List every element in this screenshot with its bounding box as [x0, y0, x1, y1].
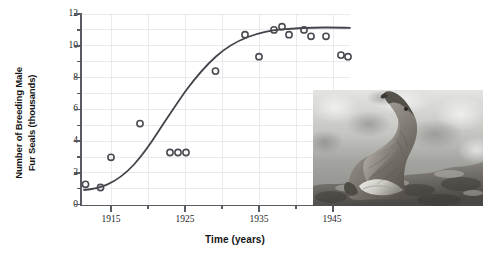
data-point	[167, 149, 173, 155]
data-point	[242, 32, 248, 38]
seal-population-figure: Number of Breeding Male Fur Seals (thous…	[0, 0, 500, 266]
data-point	[137, 121, 143, 127]
data-point	[286, 32, 292, 38]
data-point	[338, 52, 344, 58]
data-point	[212, 68, 218, 74]
fur-seal-photo-image	[313, 90, 483, 206]
fitted-logistic-curve	[84, 28, 350, 191]
data-point	[82, 181, 88, 187]
data-point	[183, 149, 189, 155]
grid-horizontal	[81, 14, 350, 189]
data-points	[82, 24, 351, 191]
data-point	[175, 149, 181, 155]
y-axis-ticks	[74, 14, 81, 205]
data-point	[323, 33, 329, 39]
data-point	[345, 54, 351, 60]
data-point	[308, 33, 314, 39]
fur-seal-photo	[313, 90, 483, 206]
